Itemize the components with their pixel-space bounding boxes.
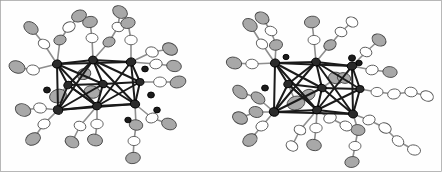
small-dark-atom xyxy=(44,87,51,93)
open-ellipsoid-atom xyxy=(91,119,103,129)
metal-atom xyxy=(136,78,145,86)
small-dark-atom xyxy=(148,92,155,98)
core-bond xyxy=(352,66,353,114)
open-ellipsoid-atom xyxy=(310,123,322,133)
small-dark-atom xyxy=(125,117,131,123)
open-ellipsoid-atom xyxy=(128,136,140,145)
core-bond xyxy=(274,63,275,112)
small-dark-atom xyxy=(262,85,269,91)
ortep-figure xyxy=(0,0,442,172)
core-bond xyxy=(68,84,103,85)
small-dark-atom xyxy=(154,107,161,113)
small-dark-atom xyxy=(283,54,289,59)
small-dark-atom xyxy=(142,66,149,72)
open-ellipsoid-atom xyxy=(349,141,361,150)
open-ellipsoid-atom xyxy=(154,77,167,87)
core-bond xyxy=(322,88,360,89)
open-ellipsoid-atom xyxy=(371,87,383,96)
ortep-canvas xyxy=(0,0,442,172)
open-ellipsoid-atom xyxy=(125,35,137,45)
small-dark-atom xyxy=(349,55,356,61)
open-ellipsoid-atom xyxy=(308,35,320,44)
metal-atom xyxy=(356,85,365,93)
core-bond xyxy=(57,64,58,110)
